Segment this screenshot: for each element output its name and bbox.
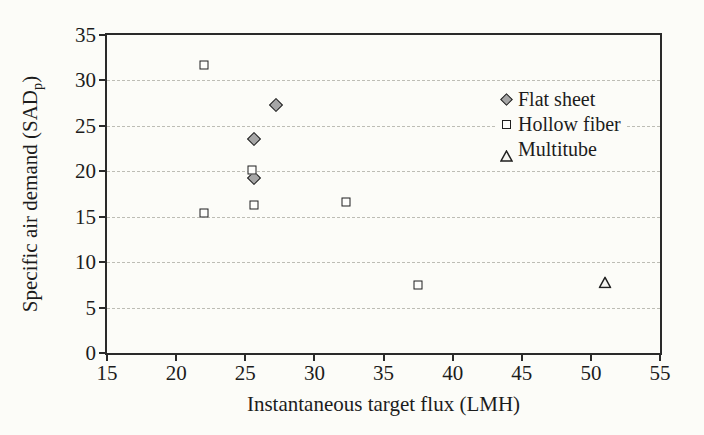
square-icon	[502, 120, 511, 129]
x-tick-label-35: 35	[354, 361, 414, 386]
y-tick-35	[99, 34, 105, 36]
y-tick-label-35: 35	[36, 23, 96, 47]
x-tick-label-25: 25	[215, 361, 275, 386]
square-marker-icon	[342, 198, 351, 207]
square-marker-icon	[199, 209, 208, 218]
square-marker-icon	[249, 200, 258, 209]
y-tick-label-10: 10	[36, 250, 96, 274]
data-point-hollow-fiber	[418, 285, 427, 294]
y-tick-label-25: 25	[36, 114, 96, 138]
y-tick-10	[99, 261, 105, 263]
data-point-hollow-fiber	[254, 205, 263, 214]
data-point-flat-sheet	[254, 139, 264, 149]
triangle-icon	[500, 144, 513, 156]
gridline-y-20	[107, 171, 660, 172]
y-tick-25	[99, 125, 105, 127]
legend-label-flat-sheet: Flat sheet	[518, 88, 595, 111]
square-marker-icon	[199, 60, 208, 69]
y-axis-title: Specific air demand (SADp)	[18, 76, 43, 312]
y-tick-label-30: 30	[36, 68, 96, 92]
y-tick-label-20: 20	[36, 159, 96, 183]
legend-label-multitube: Multitube	[518, 138, 597, 161]
y-tick-0	[99, 352, 105, 354]
legend: Flat sheet Hollow fiber Multitube	[497, 86, 627, 163]
y-tick-20	[99, 170, 105, 172]
gridline-y-5	[107, 308, 660, 309]
data-point-hollow-fiber	[346, 202, 355, 211]
diamond-marker-icon	[246, 132, 260, 146]
gridline-y-30	[107, 80, 660, 81]
hollow-fiber-square-icon	[499, 120, 514, 129]
diamond-icon	[500, 93, 513, 106]
data-point-flat-sheet	[276, 105, 286, 115]
triangle-marker-icon	[598, 275, 611, 287]
y-tick-5	[99, 307, 105, 309]
x-tick-label-20: 20	[146, 361, 206, 386]
x-tick-label-45: 45	[492, 361, 552, 386]
x-tick-label-30: 30	[284, 361, 344, 386]
gridline-y-15	[107, 217, 660, 218]
y-tick-15	[99, 216, 105, 218]
y-tick-label-0: 0	[36, 341, 96, 365]
y-tick-30	[99, 79, 105, 81]
data-point-hollow-fiber	[204, 65, 213, 74]
data-point-multitube	[605, 281, 618, 293]
legend-row-flat-sheet: Flat sheet	[499, 87, 621, 112]
x-tick-label-40: 40	[423, 361, 483, 386]
legend-label-hollow-fiber: Hollow fiber	[518, 113, 621, 136]
square-marker-icon	[414, 280, 423, 289]
data-point-hollow-fiber	[204, 213, 213, 222]
y-tick-label-15: 15	[36, 205, 96, 229]
multitube-triangle-icon	[499, 144, 514, 156]
y-tick-label-5: 5	[36, 296, 96, 320]
data-point-hollow-fiber	[252, 170, 261, 179]
diamond-marker-icon	[269, 98, 283, 112]
square-marker-icon	[248, 166, 257, 175]
legend-row-hollow-fiber: Hollow fiber	[499, 112, 621, 137]
x-axis-title: Instantaneous target flux (LMH)	[107, 392, 660, 417]
x-tick-label-55: 55	[630, 361, 690, 386]
gridline-y-10	[107, 262, 660, 263]
x-tick-label-50: 50	[561, 361, 621, 386]
legend-row-multitube: Multitube	[499, 137, 621, 162]
flat-sheet-diamond-icon	[499, 95, 514, 104]
scatter-chart: Specific air demand (SADp) Instantaneous…	[0, 0, 704, 435]
